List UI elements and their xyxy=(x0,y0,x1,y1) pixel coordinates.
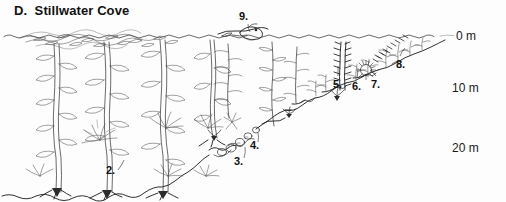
kelp-forest-illustration: .ln{fill:none;stroke:#2b2b2b;stroke-widt… xyxy=(0,0,506,202)
callout-label-4: 4. xyxy=(250,139,259,151)
callout-label-2: 2. xyxy=(106,164,115,176)
depth-label-10m: 10 m xyxy=(452,81,479,95)
callout-label-6: 6. xyxy=(352,80,361,92)
callout-label-3: 3. xyxy=(234,155,243,167)
figure-panel: .ln{fill:none;stroke:#2b2b2b;stroke-widt… xyxy=(0,0,506,202)
callout-label-5: 5. xyxy=(333,78,342,90)
callout-label-8: 8. xyxy=(396,58,405,70)
callout-label-7: 7. xyxy=(371,78,380,90)
callout-label-9: 9. xyxy=(239,10,248,22)
figure-title: D. Stillwater Cove xyxy=(14,3,129,18)
depth-label-0m: 0 m xyxy=(456,29,476,43)
depth-label-20m: 20 m xyxy=(452,141,479,155)
